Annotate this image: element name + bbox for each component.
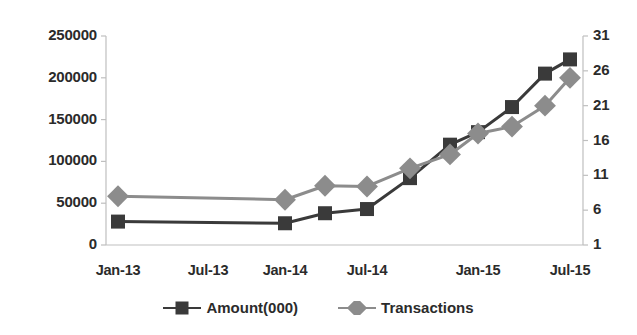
x-axis-tick-label: Jan-15 bbox=[433, 262, 523, 278]
legend-marker-diamond-icon bbox=[338, 301, 376, 315]
chart-legend: Amount(000)Transactions bbox=[0, 299, 637, 316]
y-axis-right-tick-label: 11 bbox=[593, 165, 608, 182]
data-point-marker bbox=[439, 144, 461, 166]
data-point-marker bbox=[563, 52, 577, 66]
y-axis-right-tick-label: 21 bbox=[593, 96, 609, 113]
legend-item[interactable]: Transactions bbox=[338, 299, 474, 316]
chart-container: 250000200000150000100000500000 312621161… bbox=[0, 0, 637, 335]
data-point-marker bbox=[501, 116, 523, 138]
y-axis-left-tick-label: 150000 bbox=[48, 110, 97, 127]
legend-label: Transactions bbox=[381, 299, 474, 316]
data-point-marker bbox=[107, 185, 129, 207]
legend-marker-square-icon bbox=[163, 301, 201, 315]
x-axis-tick-label: Jul-15 bbox=[525, 262, 615, 278]
legend-item[interactable]: Amount(000) bbox=[163, 299, 298, 316]
x-axis-tick-label: Jan-13 bbox=[73, 262, 163, 278]
y-axis-right-tick-label: 1 bbox=[593, 235, 601, 252]
series-line bbox=[118, 78, 570, 200]
series-transactions bbox=[107, 67, 581, 211]
y-axis-left-tick-label: 100000 bbox=[48, 151, 97, 168]
y-axis-right-tick-label: 31 bbox=[593, 26, 609, 43]
legend-label: Amount(000) bbox=[206, 299, 298, 316]
data-point-marker bbox=[274, 189, 296, 211]
data-point-marker bbox=[505, 100, 519, 114]
legend-marker-shape bbox=[347, 301, 367, 315]
y-axis-right-tick-label: 26 bbox=[593, 61, 609, 78]
series-amount-000- bbox=[111, 52, 577, 230]
legend-marker-shape bbox=[176, 301, 189, 314]
y-axis-left-tick-label: 50000 bbox=[56, 193, 97, 210]
y-axis-left-tick-label: 200000 bbox=[48, 68, 97, 85]
data-point-marker bbox=[318, 206, 332, 220]
y-axis-right-tick-label: 16 bbox=[593, 131, 609, 148]
data-point-marker bbox=[314, 175, 336, 197]
y-axis-left-tick-label: 0 bbox=[89, 235, 97, 252]
data-point-marker bbox=[278, 216, 292, 230]
data-point-marker bbox=[538, 67, 552, 81]
y-axis-left-tick-label: 250000 bbox=[48, 26, 97, 43]
data-point-marker bbox=[111, 215, 125, 229]
data-point-marker bbox=[360, 202, 374, 216]
x-axis-tick-label: Jul-14 bbox=[322, 262, 412, 278]
data-point-marker bbox=[399, 157, 421, 179]
y-axis-right-tick-label: 6 bbox=[593, 200, 601, 217]
data-point-marker bbox=[356, 176, 378, 198]
x-axis-tick-label: Jan-14 bbox=[240, 262, 330, 278]
